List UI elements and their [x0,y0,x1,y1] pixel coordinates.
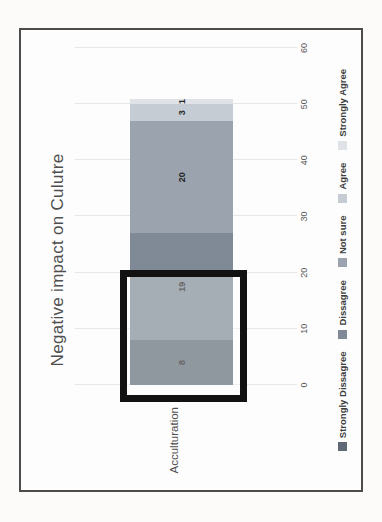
legend-label: Strongly Agree [337,69,348,137]
tick-label: 60 [299,43,309,53]
bar-segment-not-sure: 20 [130,121,233,233]
chart-photo-page: Negative impact on Culutre 8192031 Accul… [0,0,382,522]
legend-item: Strongly Dissagree [337,352,348,452]
data-label: 3 [177,110,187,115]
tick-label: 10 [299,324,309,334]
legend-swatch [338,258,347,267]
legend-swatch [338,141,347,150]
category-axis-label: Acculturation [168,407,180,490]
bar-segment-agree: 3 [130,104,233,121]
chart-title: Negative impact on Culutre [48,30,68,490]
legend-swatch [338,194,347,203]
legend-label: Agree [337,163,348,190]
data-label: 1 [177,99,187,104]
legend-item: Not sure [337,216,348,268]
legend-item: Agree [337,163,348,203]
highlight-rectangle-annotation [120,270,247,402]
tick-label: 30 [299,211,309,221]
legend-swatch [338,330,347,339]
tick-label: 20 [299,268,309,278]
chart-frame: Negative impact on Culutre 8192031 Accul… [19,28,363,492]
bar-segment-strongly-agree: 1 [130,99,233,105]
value-axis-tick-labels: 0102030405060 [299,48,311,385]
plot-area: 8192031 [75,48,297,385]
legend-label: Strongly Dissagree [337,352,348,439]
legend: Strongly DissagreeDissagreeNot sureAgree… [337,30,348,490]
tick-label: 50 [299,99,309,109]
legend-item: Strongly Agree [337,69,348,150]
legend-label: Dissagree [337,280,348,325]
legend-label: Not sure [337,216,348,255]
tick-label: 0 [299,382,309,387]
rotated-chart-container: Negative impact on Culutre 8192031 Accul… [0,0,382,522]
legend-item: Dissagree [337,280,348,338]
tick-label: 40 [299,155,309,165]
legend-swatch [338,442,347,451]
data-label: 20 [177,172,187,182]
